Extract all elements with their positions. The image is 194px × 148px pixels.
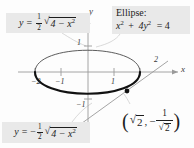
point-coordinate-label: ( √ 2 , − 1 √ 2 )	[122, 104, 192, 138]
ellipse-callout-equation: x2 + 4y2 = 4	[116, 20, 190, 32]
upper-coefficient-numerator: 1	[36, 14, 42, 21]
upper-radicand: 4 − x2	[49, 17, 75, 30]
x-tick-label--2: −2	[31, 77, 40, 86]
lower-semiellipse-curve	[35, 72, 140, 94]
lower-radical: √ 4 − x2	[45, 126, 77, 140]
x-tick-label-2: 2	[154, 55, 158, 64]
lower-lhs: y	[14, 127, 18, 138]
ellipse-equation-callout: Ellipse: x2 + 4y2 = 4	[112, 6, 190, 34]
ellipse-y-term: 4y	[138, 20, 147, 31]
tangency-point-marker	[125, 89, 130, 94]
point-x-radicand: 2	[136, 115, 144, 128]
lower-minus-sign: −	[30, 127, 36, 138]
ellipse-plus-sign: +	[128, 20, 134, 31]
point-y-fraction: 1 √ 2	[156, 109, 172, 133]
x-axis-label: x	[181, 64, 185, 74]
lower-coefficient-denominator: 2	[37, 134, 43, 141]
ellipse-callout-title: Ellipse:	[116, 8, 190, 19]
lower-radicand-exponent: 2	[72, 127, 75, 134]
ellipse-x-exponent: 2	[120, 19, 123, 26]
ellipse-figure: −2 −1 1 2 1 −1 x y y = 1 2 √ 4 − x2 y = …	[0, 0, 194, 148]
point-x-radical: √ 2	[130, 114, 144, 128]
point-y-minus: −	[149, 115, 155, 127]
y-tick-label-1: 1	[77, 38, 81, 47]
lower-radicand: 4 − x2	[50, 127, 76, 140]
upper-semiellipse-curve	[35, 50, 140, 72]
x-tick-label-1: 1	[111, 77, 115, 86]
lower-coefficient: 1 2	[37, 124, 43, 141]
upper-lhs: y	[19, 18, 23, 29]
lower-coefficient-numerator: 1	[37, 124, 43, 131]
y-tick-label--1: −1	[76, 100, 85, 109]
x-tick-label--1: −1	[55, 77, 64, 86]
point-comma: ,	[145, 115, 148, 127]
upper-coefficient-denominator: 2	[36, 25, 42, 32]
ellipse-y-exponent: 2	[148, 19, 151, 26]
lower-equals: =	[22, 127, 28, 138]
point-y-numerator: 1	[161, 109, 168, 118]
upper-radicand-exponent: 2	[72, 17, 75, 24]
ellipse-rhs: = 4	[157, 20, 170, 31]
point-y-radicand: 2	[164, 123, 171, 133]
close-paren: )	[174, 111, 181, 131]
point-y-denominator: √ 2	[156, 122, 172, 133]
open-paren: (	[122, 111, 129, 131]
lower-radicand-text: 4 − x	[51, 128, 72, 139]
upper-coefficient: 1 2	[36, 14, 42, 31]
upper-radical: √ 4 − x2	[44, 16, 76, 30]
upper-radicand-text: 4 − x	[50, 18, 71, 29]
upper-branch-callout: y = 1 2 √ 4 − x2	[6, 13, 90, 33]
lower-branch-callout: y = − 1 2 √ 4 − x2	[2, 122, 90, 143]
upper-equals: =	[26, 18, 32, 29]
point-y-radical: √ 2	[158, 122, 170, 133]
